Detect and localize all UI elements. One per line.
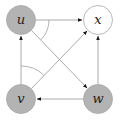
node-label-x: x xyxy=(94,12,102,27)
angle-arc-v xyxy=(21,66,44,75)
node-x: x xyxy=(84,6,113,35)
graph-diagram: u x v w xyxy=(0,0,122,120)
node-label-u: u xyxy=(17,12,25,27)
node-w: w xyxy=(84,85,113,114)
edges xyxy=(21,20,98,99)
node-label-w: w xyxy=(92,91,103,106)
node-label-v: v xyxy=(17,91,25,106)
angle-arc-u xyxy=(41,20,49,40)
node-u: u xyxy=(7,6,36,35)
node-v: v xyxy=(7,85,36,114)
